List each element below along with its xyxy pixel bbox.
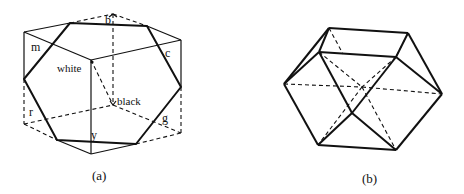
label-r: r [29,105,33,119]
caption-b: (b) [362,171,377,186]
diagram-canvas: b m c r g y white black (a) [0,0,464,194]
polyhedron-hidden-edges [284,28,442,150]
cube-visible-edges [24,23,181,154]
white-black-diagonal [91,60,113,105]
label-g: g [162,111,168,125]
label-black: black [117,95,141,107]
label-b: b [105,13,111,27]
label-m: m [31,40,41,54]
label-white: white [57,62,82,74]
label-y: y [91,128,97,142]
white-vertex-marker [90,60,93,63]
label-c: c [165,46,170,60]
hexagon-section [24,23,181,144]
caption-a: (a) [92,168,106,183]
figure-b: (b) [284,28,442,186]
figure-a: b m c r g y white black (a) [24,13,181,183]
